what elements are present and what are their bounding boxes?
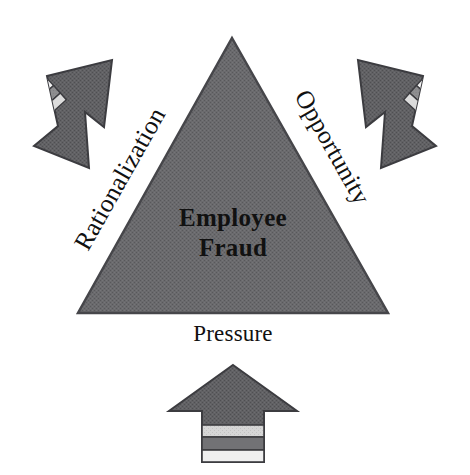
arrow-bottom-stripes	[202, 425, 264, 462]
arrow-bottom-stripe-3	[202, 450, 264, 462]
arrow-bottom-stripe-2	[202, 437, 264, 450]
arrow-top-left-stripe-2	[11, 86, 61, 132]
fraud-triangle-canvas: Employee Fraud Rationalization Opportuni…	[0, 0, 470, 475]
arrow-top-right-stripe-1	[416, 79, 465, 124]
center-label-line1: Employee	[179, 204, 287, 231]
arrow-top-right	[358, 60, 465, 168]
arrow-bottom	[169, 365, 297, 462]
arrow-top-left-body	[34, 60, 112, 168]
arrow-top-right-body	[358, 60, 436, 168]
side-label-pressure-group: Pressure	[193, 321, 273, 346]
side-label-pressure: Pressure	[193, 321, 273, 346]
arrow-bottom-stripe-1	[202, 425, 264, 437]
center-label-line2: Fraud	[199, 234, 267, 261]
arrow-top-left	[5, 60, 112, 168]
arrow-top-right-stripe-2	[410, 86, 460, 132]
fraud-triangle-diagram: Employee Fraud Rationalization Opportuni…	[0, 0, 470, 475]
arrow-top-left-stripe-1	[5, 79, 54, 124]
